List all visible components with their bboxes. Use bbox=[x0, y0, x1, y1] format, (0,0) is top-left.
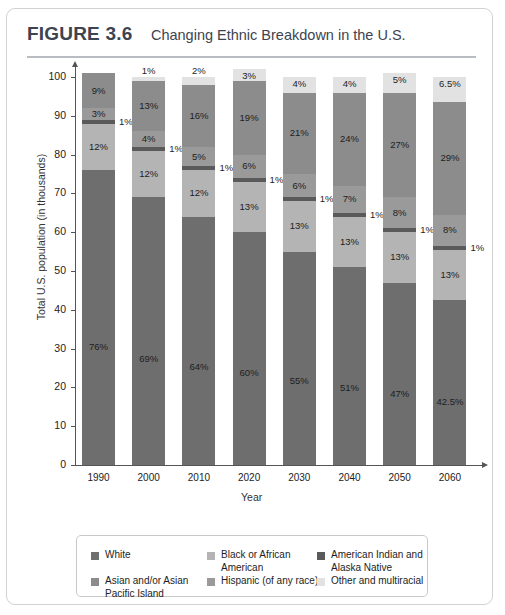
y-tick-label: 70 bbox=[40, 186, 66, 198]
x-axis-arrow-icon bbox=[482, 462, 488, 468]
y-tick-label: 20 bbox=[40, 380, 66, 392]
segment-label: 60% bbox=[233, 367, 266, 378]
bar-segment[interactable] bbox=[383, 228, 416, 232]
bar-segment[interactable] bbox=[182, 77, 215, 85]
figure-title: Changing Ethnic Breakdown in the U.S. bbox=[151, 27, 406, 43]
segment-label: 1% bbox=[132, 65, 165, 76]
segment-label: 5% bbox=[182, 151, 215, 162]
segment-label: 9% bbox=[82, 85, 115, 96]
segment-label: 2% bbox=[182, 65, 215, 76]
y-tick-label: 30 bbox=[40, 342, 66, 354]
segment-callout-label: 1% bbox=[470, 242, 484, 253]
segment-label: 13% bbox=[333, 236, 366, 247]
segment-label: 47% bbox=[383, 388, 416, 399]
segment-label: 4% bbox=[283, 78, 316, 89]
segment-label: 21% bbox=[283, 127, 316, 138]
legend-swatch-icon bbox=[91, 552, 99, 560]
bar-segment[interactable] bbox=[433, 300, 466, 465]
bar-segment[interactable] bbox=[383, 283, 416, 465]
segment-label: 16% bbox=[182, 110, 215, 121]
x-tick-label: 2050 bbox=[375, 472, 425, 483]
segment-callout-label: 1% bbox=[270, 174, 284, 185]
bar-2030[interactable]: 55%13%1%6%21%4% bbox=[283, 61, 316, 465]
bar-segment[interactable] bbox=[433, 246, 466, 250]
x-tick-label: 2030 bbox=[274, 472, 324, 483]
y-tick-label: 0 bbox=[40, 458, 66, 470]
y-axis-line bbox=[75, 67, 76, 465]
segment-label: 13% bbox=[233, 201, 266, 212]
segment-callout-label: 1% bbox=[370, 209, 384, 220]
segment-label: 13% bbox=[433, 269, 466, 280]
segment-label: 27% bbox=[383, 139, 416, 150]
segment-label: 4% bbox=[132, 133, 165, 144]
y-tick-label: 90 bbox=[40, 109, 66, 121]
legend-label: Black or African American bbox=[221, 549, 331, 574]
segment-label: 8% bbox=[383, 207, 416, 218]
bar-2020[interactable]: 60%13%1%6%19%3% bbox=[233, 61, 266, 465]
legend-label: Hispanic (of any race) bbox=[221, 575, 331, 588]
x-tick-label: 2010 bbox=[174, 472, 224, 483]
legend-swatch-icon bbox=[207, 578, 215, 586]
segment-label: 8% bbox=[433, 224, 466, 235]
legend-label: Other and multiracial bbox=[331, 575, 441, 588]
segment-label: 29% bbox=[433, 152, 466, 163]
segment-label: 7% bbox=[333, 193, 366, 204]
segment-label: 24% bbox=[333, 133, 366, 144]
bar-segment[interactable] bbox=[283, 197, 316, 201]
figure-card: FIGURE 3.6 Changing Ethnic Breakdown in … bbox=[6, 8, 493, 605]
chart-plot-area: Total U.S. population (in thousands) 010… bbox=[7, 61, 494, 481]
segment-label: 4% bbox=[333, 78, 366, 89]
bar-segment[interactable] bbox=[182, 217, 215, 465]
segment-label: 12% bbox=[82, 141, 115, 152]
bar-segment[interactable] bbox=[82, 120, 115, 124]
bar-2010[interactable]: 64%12%1%5%16%2% bbox=[182, 61, 215, 465]
y-axis-arrow-icon bbox=[72, 61, 78, 67]
x-tick-label: 2040 bbox=[325, 472, 375, 483]
y-tick-label: 10 bbox=[40, 419, 66, 431]
bar-segment[interactable] bbox=[132, 197, 165, 465]
bar-segment[interactable] bbox=[233, 232, 266, 465]
segment-label: 6% bbox=[283, 180, 316, 191]
bar-2000[interactable]: 69%12%1%4%13%1% bbox=[132, 61, 165, 465]
segment-label: 3% bbox=[233, 70, 266, 81]
segment-label: 69% bbox=[132, 353, 165, 364]
figure-number: FIGURE 3.6 bbox=[27, 23, 132, 45]
segment-label: 55% bbox=[283, 375, 316, 386]
figure-header: FIGURE 3.6 Changing Ethnic Breakdown in … bbox=[27, 23, 474, 57]
segment-label: 19% bbox=[233, 112, 266, 123]
bar-segment[interactable] bbox=[333, 213, 366, 217]
segment-callout-label: 1% bbox=[119, 116, 133, 127]
segment-label: 6% bbox=[233, 160, 266, 171]
x-tick-label: 2000 bbox=[124, 472, 174, 483]
segment-label: 13% bbox=[283, 220, 316, 231]
bar-segment[interactable] bbox=[182, 166, 215, 170]
segment-callout-label: 1% bbox=[169, 143, 183, 154]
bar-segment[interactable] bbox=[233, 178, 266, 182]
x-axis-title: Year bbox=[37, 491, 466, 503]
segment-label: 3% bbox=[82, 108, 115, 119]
y-tick-label: 50 bbox=[40, 264, 66, 276]
chart-legend: WhiteBlack or African AmericanAmerican I… bbox=[76, 535, 428, 597]
legend-label: Asian and/or Asian Pacific Island bbox=[105, 575, 215, 600]
x-tick-label: 2020 bbox=[224, 472, 274, 483]
bar-segment[interactable] bbox=[82, 170, 115, 465]
segment-label: 12% bbox=[182, 187, 215, 198]
legend-swatch-icon bbox=[317, 552, 325, 560]
x-tick-label: 2060 bbox=[425, 472, 475, 483]
legend-label: American Indian and Alaska Native bbox=[331, 549, 441, 574]
y-tick-label: 60 bbox=[40, 225, 66, 237]
bar-segment[interactable] bbox=[132, 147, 165, 151]
bar-segment[interactable] bbox=[333, 267, 366, 465]
legend-swatch-icon bbox=[207, 552, 215, 560]
y-tick-label: 100 bbox=[40, 70, 66, 82]
segment-label: 13% bbox=[383, 251, 416, 262]
bar-segment[interactable] bbox=[132, 77, 165, 81]
bar-2060[interactable]: 42.5%13%1%8%29%6.5% bbox=[433, 61, 466, 465]
header-divider bbox=[27, 56, 476, 58]
bar-1990[interactable]: 76%12%1%3%9% bbox=[82, 61, 115, 465]
segment-label: 6.5% bbox=[433, 78, 466, 89]
bar-2040[interactable]: 51%13%1%7%24%4% bbox=[333, 61, 366, 465]
bar-2050[interactable]: 47%13%1%8%27%5% bbox=[383, 61, 416, 465]
bar-segment[interactable] bbox=[283, 252, 316, 465]
segment-label: 12% bbox=[132, 168, 165, 179]
